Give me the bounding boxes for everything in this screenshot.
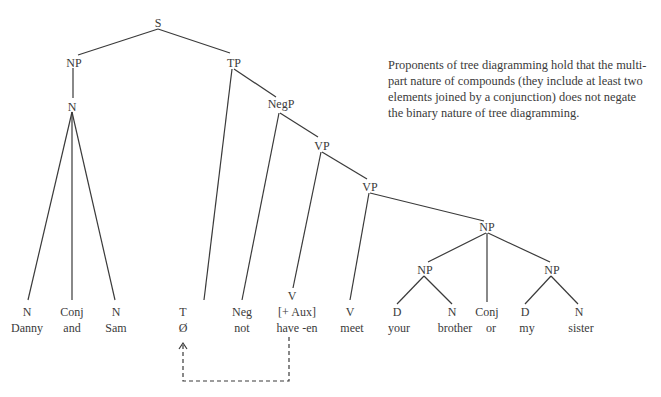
caption-line: elements joined by a conjunction) does n… [388, 89, 658, 105]
movement-arrow [179, 337, 289, 381]
leaf-word: brother [438, 321, 473, 335]
node-NP-subject: NP [66, 56, 82, 70]
leaf-cat: N [23, 305, 32, 319]
tree-nodes: S NP N TP NegP VP VP NP NP NP [66, 16, 560, 277]
leaf-cat: Neg [232, 305, 252, 319]
leaf-cat: N [112, 305, 121, 319]
leaf-word: sister [568, 321, 593, 335]
node-VP-lower: VP [362, 180, 378, 194]
leaf-cat: V [346, 305, 355, 319]
leaf-cat: V [288, 289, 297, 303]
leaf-word: not [234, 321, 250, 335]
leaf-word: and [63, 321, 80, 335]
leaf-word: Ø [179, 321, 188, 335]
node-NegP: NegP [268, 97, 295, 111]
leaf-word: or [486, 321, 496, 335]
node-NP-object-left: NP [417, 263, 433, 277]
tree-leaves: N Danny Conj and N Sam T Ø Neg not V [+ … [11, 289, 594, 335]
leaf-cat: D [393, 305, 402, 319]
node-N-subject: N [68, 100, 77, 114]
leaf-word: Sam [105, 321, 127, 335]
caption-line: Proponents of tree diagramming hold that… [388, 57, 658, 73]
caption-paragraph: Proponents of tree diagramming hold that… [388, 57, 658, 121]
leaf-word: your [388, 321, 410, 335]
leaf-cat: T [179, 305, 187, 319]
node-VP-upper: VP [314, 139, 330, 153]
caption-line: part nature of compounds (they include a… [388, 73, 658, 89]
node-NP-object-right: NP [544, 263, 560, 277]
leaf-cat: N [575, 305, 584, 319]
leaf-word: Danny [11, 321, 43, 335]
leaf-feature: [+ Aux] [278, 305, 316, 319]
leaf-cat: N [448, 305, 457, 319]
leaf-cat: Conj [475, 305, 498, 319]
node-S: S [155, 16, 162, 30]
leaf-cat: Conj [60, 305, 83, 319]
leaf-word: meet [340, 321, 364, 335]
leaf-word: my [519, 321, 534, 335]
leaf-cat: D [521, 305, 530, 319]
node-NP-object: NP [479, 220, 495, 234]
leaf-word: have -en [277, 321, 318, 335]
node-TP: TP [227, 56, 241, 70]
caption-line: the binary nature of tree diagramming. [388, 105, 658, 121]
